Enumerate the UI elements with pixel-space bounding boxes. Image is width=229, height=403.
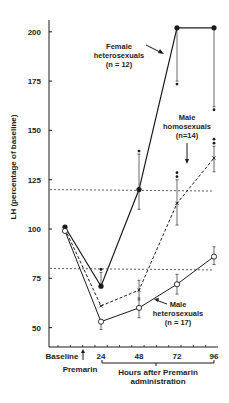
female-label-line3: (n = 12) <box>106 60 133 69</box>
premarin-label: Premarin <box>63 365 98 374</box>
y-tick-label-75: 75 <box>32 274 41 283</box>
data-point <box>98 284 103 289</box>
data-point <box>136 187 141 192</box>
significance-asterisk-icon <box>176 83 179 86</box>
data-point <box>211 25 216 30</box>
labels: LH (percentage of baseline) Baseline Pre… <box>9 42 211 386</box>
x-tick-label-24: 24 <box>97 352 106 361</box>
series-male-homo <box>63 138 215 308</box>
reference-line-120 <box>50 190 214 192</box>
male-homo-label-line2: homosexuals <box>163 122 211 131</box>
y-tick-label-200: 200 <box>28 28 42 37</box>
series-female <box>62 25 216 289</box>
male-homo-label-line1: Male <box>179 113 196 122</box>
male-hetero-label-line1: Male <box>170 300 187 309</box>
y-tick-label-150: 150 <box>28 126 42 135</box>
reference-line-80 <box>50 268 214 270</box>
label-male-homo: Male homosexuals (n=14) <box>163 113 211 140</box>
y-tick-label-175: 175 <box>28 77 42 86</box>
data-point <box>174 282 179 287</box>
x-tick-label-96: 96 <box>210 352 219 361</box>
x-tick-label-48: 48 <box>135 352 144 361</box>
y-axis-label: LH (percentage of baseline) <box>9 114 18 219</box>
lh-chart: 507510012515017520024487296 LH (percenta… <box>0 0 229 403</box>
data-point <box>136 305 141 310</box>
premarin-arrowhead-icon <box>81 349 85 353</box>
line-female <box>65 28 214 286</box>
significance-asterisk-icon <box>138 150 141 153</box>
data-point <box>98 319 103 324</box>
y-tick-label-125: 125 <box>28 176 42 185</box>
data-point <box>211 254 216 259</box>
x-axis-label-line1: Hours after Premarin <box>118 368 198 377</box>
x-tick-label-72: 72 <box>173 352 182 361</box>
male-hetero-label-line3: (n = 17) <box>165 318 192 327</box>
significance-asterisk-icon <box>213 138 216 141</box>
series-group <box>62 25 216 329</box>
male-homo-label-line3: (n=14) <box>176 131 199 140</box>
data-point <box>62 228 67 233</box>
significance-asterisk-icon <box>213 108 216 111</box>
label-male-hetero: Male heterosexuals (n = 17) <box>153 300 203 327</box>
y-tick-label-100: 100 <box>28 225 42 234</box>
female-label-line2: heterosexuals <box>94 51 144 60</box>
significance-asterisk-icon <box>213 142 216 145</box>
significance-asterisk-icon <box>176 175 179 178</box>
x-tick-label-baseline: Baseline <box>46 352 79 361</box>
male-hetero-label-line2: heterosexuals <box>153 309 203 318</box>
male-homo-pointer-arrowhead-icon <box>185 159 189 164</box>
female-label-line1: Female <box>106 42 132 51</box>
reference-lines <box>50 190 214 270</box>
y-tick-label-50: 50 <box>32 324 41 333</box>
line-male-homo <box>65 158 214 306</box>
significance-asterisk-icon <box>176 171 179 174</box>
data-point <box>174 25 179 30</box>
label-female: Female heterosexuals (n = 12) <box>94 42 144 69</box>
significance-asterisk-icon <box>100 268 103 271</box>
female-pointer-arrowhead-icon <box>158 49 164 54</box>
x-axis-label-line2: administration <box>130 377 185 386</box>
